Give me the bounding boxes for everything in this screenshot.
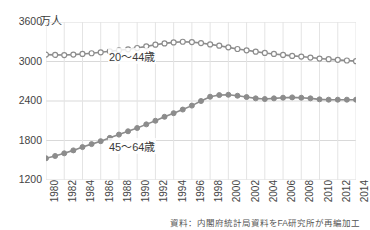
data-point-marker bbox=[71, 52, 76, 57]
data-point-marker bbox=[226, 45, 231, 50]
y-axis-tick-label: 3600 bbox=[4, 16, 42, 27]
data-point-marker bbox=[199, 41, 204, 46]
data-point-marker bbox=[235, 93, 240, 98]
data-point-marker bbox=[299, 54, 304, 59]
data-point-marker bbox=[344, 58, 349, 63]
data-point-marker bbox=[189, 103, 194, 108]
x-axis-tick-label: 2008 bbox=[305, 180, 315, 202]
data-point-marker bbox=[271, 51, 276, 56]
data-point-marker bbox=[344, 97, 349, 102]
data-point-marker bbox=[89, 51, 94, 56]
series-label-45-64: 45～64歳 bbox=[108, 138, 156, 154]
data-point-marker bbox=[126, 129, 131, 134]
data-point-marker bbox=[46, 156, 49, 161]
x-axis-tick-label: 2006 bbox=[287, 180, 297, 202]
data-point-marker bbox=[326, 97, 331, 102]
data-point-marker bbox=[281, 52, 286, 57]
data-point-marker bbox=[180, 39, 185, 44]
data-point-marker bbox=[189, 40, 194, 45]
data-point-marker bbox=[171, 40, 176, 45]
y-axis-tick-label: 1200 bbox=[4, 174, 42, 185]
x-axis-tick-label: 2000 bbox=[232, 180, 242, 202]
x-axis-tick-label: 1982 bbox=[68, 180, 78, 202]
x-axis-tick-label: 2004 bbox=[269, 180, 279, 202]
data-point-marker bbox=[62, 53, 67, 58]
x-axis-tick-label: 1988 bbox=[123, 180, 133, 202]
data-point-marker bbox=[208, 42, 213, 47]
data-point-marker bbox=[171, 111, 176, 116]
data-point-marker bbox=[226, 92, 231, 97]
data-point-marker bbox=[335, 97, 340, 102]
data-point-marker bbox=[199, 99, 204, 104]
x-axis-tick-label: 1980 bbox=[50, 180, 60, 202]
data-point-marker bbox=[116, 132, 121, 137]
data-point-marker bbox=[162, 114, 167, 119]
data-point-marker bbox=[46, 52, 49, 57]
data-point-marker bbox=[98, 50, 103, 55]
x-axis-tick-label: 1992 bbox=[159, 180, 169, 202]
data-point-marker bbox=[317, 97, 322, 102]
data-point-marker bbox=[53, 52, 58, 57]
data-point-marker bbox=[281, 95, 286, 100]
data-point-marker bbox=[217, 43, 222, 48]
data-point-marker bbox=[290, 53, 295, 58]
data-point-marker bbox=[135, 125, 140, 130]
data-point-marker bbox=[98, 139, 103, 144]
data-point-marker bbox=[153, 118, 158, 123]
x-axis-tick-label: 2002 bbox=[251, 180, 261, 202]
data-point-marker bbox=[253, 96, 258, 101]
y-axis-tick-label: 2400 bbox=[4, 95, 42, 106]
x-axis-tick-label: 2012 bbox=[342, 180, 352, 202]
x-axis-tick-label: 1998 bbox=[214, 180, 224, 202]
data-point-marker bbox=[144, 122, 149, 127]
source-note: 資料：内閣府統計局資料をFA研究所が再編加工 bbox=[170, 216, 360, 228]
x-axis-tick-label: 1996 bbox=[196, 180, 206, 202]
data-point-marker bbox=[271, 96, 276, 101]
data-point-marker bbox=[308, 55, 313, 60]
x-axis-tick-label: 1986 bbox=[105, 180, 115, 202]
data-point-marker bbox=[354, 59, 357, 64]
data-point-marker bbox=[326, 57, 331, 62]
data-point-marker bbox=[308, 96, 313, 101]
plot-area bbox=[46, 22, 356, 180]
data-point-marker bbox=[89, 142, 94, 147]
data-point-marker bbox=[71, 148, 76, 153]
data-point-marker bbox=[262, 50, 267, 55]
x-axis-tick-label: 1994 bbox=[178, 180, 188, 202]
data-point-marker bbox=[244, 48, 249, 53]
data-point-marker bbox=[253, 49, 258, 54]
data-point-marker bbox=[317, 56, 322, 61]
data-point-marker bbox=[80, 51, 85, 56]
data-point-marker bbox=[53, 153, 58, 158]
plot-svg bbox=[46, 22, 356, 180]
data-point-marker bbox=[208, 94, 213, 99]
data-point-marker bbox=[354, 97, 357, 102]
data-point-marker bbox=[62, 151, 67, 156]
y-axis-tick-label: 1800 bbox=[4, 135, 42, 146]
data-point-marker bbox=[290, 95, 295, 100]
data-point-marker bbox=[335, 57, 340, 62]
data-point-marker bbox=[262, 97, 267, 102]
x-axis-tick-label: 2014 bbox=[360, 180, 370, 202]
x-axis-tick-label: 2010 bbox=[324, 180, 334, 202]
data-point-marker bbox=[180, 107, 185, 112]
data-point-marker bbox=[162, 41, 167, 46]
data-point-marker bbox=[299, 95, 304, 100]
data-point-marker bbox=[80, 145, 85, 150]
y-axis: 12001800240030003600 bbox=[0, 0, 42, 230]
x-axis-tick-label: 1984 bbox=[86, 180, 96, 202]
data-point-marker bbox=[153, 42, 158, 47]
y-axis-tick-label: 3000 bbox=[4, 56, 42, 67]
series-line-1 bbox=[46, 95, 356, 159]
x-axis-tick-label: 1990 bbox=[141, 180, 151, 202]
data-point-marker bbox=[235, 46, 240, 51]
series-label-20-44: 20～44歳 bbox=[108, 48, 156, 64]
data-point-marker bbox=[217, 93, 222, 98]
data-point-marker bbox=[244, 95, 249, 100]
x-axis: 1980198219841986198819901992199419961998… bbox=[46, 180, 356, 216]
